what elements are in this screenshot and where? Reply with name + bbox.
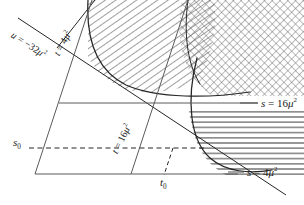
line-t-zero-dashed bbox=[164, 148, 173, 175]
label-s-16musq: s = 16μ2 bbox=[261, 96, 297, 109]
cross-hatch-region bbox=[170, 0, 304, 100]
label-t-zero: t0 bbox=[160, 176, 167, 191]
label-s-4musq: s = 4μ2 bbox=[247, 165, 277, 178]
mandelstam-plane-figure: u = −32μ2 t = 4μ2 t = 16μ2 s = 16μ2 s = … bbox=[0, 0, 304, 205]
label-s-zero: s0 bbox=[13, 136, 21, 151]
